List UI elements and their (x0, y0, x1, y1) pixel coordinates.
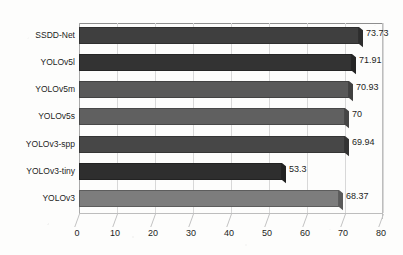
category-axis-label: SSDD-Net (1, 30, 75, 40)
bar-depth-cap (345, 136, 349, 156)
category-axis-label: YOLOv3-spp (1, 139, 75, 149)
bar-depth-cap (359, 27, 363, 47)
bar[interactable] (79, 136, 345, 153)
bar-series-item[interactable]: 70 (79, 108, 383, 135)
bar-value-label: 68.37 (346, 191, 369, 201)
value-axis-tick-label: 30 (186, 228, 196, 238)
category-axis-label: YOLOv5l (1, 57, 75, 67)
bar-depth-cap (352, 54, 356, 74)
bar-value-label: 69.94 (352, 137, 375, 147)
bar-series-item[interactable]: 53.3 (79, 163, 383, 190)
value-axis-tick-label: 60 (300, 228, 310, 238)
value-axis-tick-label: 10 (110, 228, 120, 238)
bar-depth-cap (339, 190, 343, 210)
bar-series-item[interactable]: 73.73 (79, 27, 383, 54)
bar-series-item[interactable]: 68.37 (79, 190, 383, 217)
bar-value-label: 73.73 (366, 28, 389, 38)
gridline (383, 23, 384, 213)
bar-value-label: 70.93 (356, 82, 379, 92)
bar[interactable] (79, 27, 359, 44)
category-axis: SSDD-NetYOLOv5lYOLOv5mYOLOv5sYOLOv3-sppY… (0, 23, 75, 213)
bar[interactable] (79, 54, 352, 71)
bar-value-label: 71.91 (359, 55, 382, 65)
value-axis-tick-label: 50 (262, 228, 272, 238)
category-axis-label: YOLOv3 (1, 193, 75, 203)
bar[interactable] (79, 81, 349, 98)
plot-area: 73.7371.9170.937069.9453.368.37 (79, 23, 383, 213)
value-axis-tick-labels: 01020304050607080 (0, 228, 403, 244)
bar-series-item[interactable]: 71.91 (79, 54, 383, 81)
value-axis-tick-label: 20 (148, 228, 158, 238)
bar[interactable] (79, 163, 282, 180)
bar-depth-cap (345, 108, 349, 128)
value-axis-tick-label: 80 (376, 228, 386, 238)
bar-depth-cap (349, 81, 353, 101)
category-axis-label: YOLOv5s (1, 111, 75, 121)
bar-value-label: 70 (352, 109, 362, 119)
value-axis-tick-label: 0 (74, 228, 79, 238)
category-axis-label: YOLOv3-tiny (1, 166, 75, 176)
bar-series-item[interactable]: 69.94 (79, 136, 383, 163)
value-axis-tick-label: 40 (224, 228, 234, 238)
bar[interactable] (79, 108, 345, 125)
bar[interactable] (79, 190, 339, 207)
bar-series-item[interactable]: 70.93 (79, 81, 383, 108)
value-axis-tick-label: 70 (338, 228, 348, 238)
bar-value-label: 53.3 (289, 164, 307, 174)
horizontal-bar-chart: SSDD-NetYOLOv5lYOLOv5mYOLOv5sYOLOv3-sppY… (0, 0, 403, 255)
bar-depth-cap (282, 163, 286, 183)
category-axis-label: YOLOv5m (1, 84, 75, 94)
